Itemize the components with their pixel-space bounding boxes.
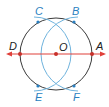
- label-a: A: [95, 40, 103, 52]
- label-f: F: [73, 91, 81, 103]
- point-b: [72, 20, 75, 23]
- point-o: [54, 52, 58, 56]
- geometry-diagram: C B D O A E F: [0, 0, 109, 107]
- point-d: [18, 52, 22, 56]
- label-e: E: [35, 91, 43, 103]
- label-b: B: [72, 5, 79, 17]
- arrow-right-icon: [100, 52, 106, 57]
- point-f: [72, 84, 75, 87]
- point-e: [36, 84, 39, 87]
- arrow-left-icon: [6, 52, 12, 57]
- label-c: C: [35, 5, 43, 17]
- point-c: [36, 20, 39, 23]
- label-d: D: [9, 40, 17, 52]
- label-o: O: [59, 41, 68, 53]
- point-a: [90, 52, 94, 56]
